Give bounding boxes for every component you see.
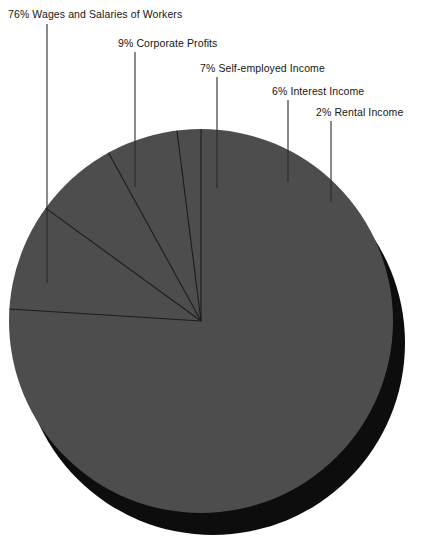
callout-label-corporate-profits: 9% Corporate Profits	[118, 37, 217, 49]
pie-chart: 76% Wages and Salaries of Workers 9% Cor…	[0, 0, 426, 548]
callout-label-rental-income: 2% Rental Income	[316, 106, 403, 118]
callout-label-self-employed-income: 7% Self-employed Income	[200, 62, 325, 74]
callout-label-interest-income: 6% Interest Income	[272, 85, 364, 97]
pie-chart-canvas	[0, 0, 426, 548]
callout-label-wages: 76% Wages and Salaries of Workers	[8, 8, 182, 20]
